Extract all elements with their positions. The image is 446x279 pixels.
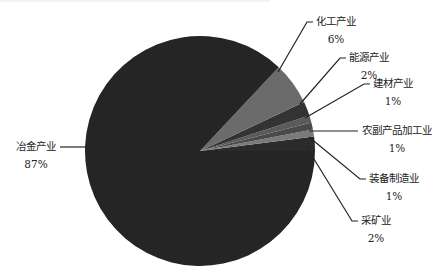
label-building: 建材产业 1% xyxy=(373,76,413,108)
leader-building xyxy=(305,84,370,118)
label-name: 化工产业 xyxy=(316,15,356,27)
label-name: 建材产业 xyxy=(373,77,413,89)
label-pct: 1% xyxy=(362,141,432,155)
pie-slices xyxy=(85,36,315,266)
label-pct: 87% xyxy=(16,157,56,171)
label-name: 冶金产业 xyxy=(16,140,56,152)
label-pct: 1% xyxy=(373,94,413,108)
label-pct: 2% xyxy=(361,231,391,245)
leader-chemical xyxy=(278,22,313,72)
leader-energy xyxy=(300,58,346,104)
label-metallurgy: 冶金产业 87% xyxy=(16,139,56,171)
leader-equipment xyxy=(309,137,366,179)
label-agri: 农副产品加工业 1% xyxy=(362,123,432,155)
label-pct: 1% xyxy=(369,189,419,203)
label-chemical: 化工产业 6% xyxy=(316,14,356,46)
label-equipment: 装备制造业 1% xyxy=(369,171,419,203)
label-mining: 采矿业 2% xyxy=(361,213,391,245)
label-name: 装备制造业 xyxy=(369,172,419,184)
label-name: 农副产品加工业 xyxy=(362,124,432,136)
label-name: 能源产业 xyxy=(349,51,389,63)
label-name: 采矿业 xyxy=(361,214,391,226)
label-pct: 6% xyxy=(316,32,356,46)
